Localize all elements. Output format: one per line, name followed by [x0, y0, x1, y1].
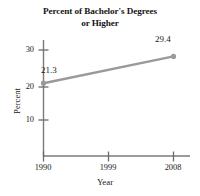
- chart-screenshot: Percent of Bachelor's Degrees or Higher …: [0, 0, 200, 196]
- data-line-series-1: [44, 56, 174, 83]
- x-tick-label-1999: 1999: [91, 163, 125, 172]
- x-tick-label-2008: 2008: [156, 163, 190, 172]
- x-tick-label-1990: 1990: [26, 163, 60, 172]
- data-label-2008: 29.4: [155, 34, 171, 44]
- x-axis-title: Year: [73, 177, 137, 187]
- data-label-1990: 21.3: [41, 65, 57, 75]
- data-point-1990: [41, 81, 46, 86]
- data-point-2008: [171, 54, 176, 59]
- y-axis-title: Percent: [12, 71, 22, 131]
- y-tick-label-30: 30: [12, 45, 34, 54]
